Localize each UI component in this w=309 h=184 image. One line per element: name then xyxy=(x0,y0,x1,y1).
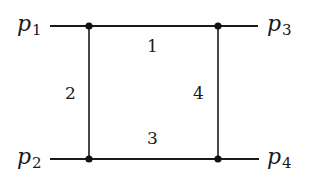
momentum-label-p2: p2 xyxy=(17,146,42,168)
momentum-subscript: 1 xyxy=(32,21,42,39)
vertex-bottom-right xyxy=(214,155,221,162)
momentum-subscript: 2 xyxy=(32,154,42,172)
momentum-label-p1: p1 xyxy=(17,13,42,35)
momentum-label-p3: p3 xyxy=(267,13,292,35)
propagator-label-bottom: 3 xyxy=(147,130,158,147)
momentum-label-p4: p4 xyxy=(267,146,292,168)
vertex-top-left xyxy=(85,22,92,29)
box-diagram-canvas xyxy=(0,0,309,184)
vertex-bottom-left xyxy=(85,155,92,162)
propagator-label-left: 2 xyxy=(65,85,76,102)
propagator-label-right: 4 xyxy=(193,85,204,102)
momentum-subscript: 3 xyxy=(282,21,292,39)
momentum-symbol: p xyxy=(17,144,31,169)
propagator-label-top: 1 xyxy=(147,38,158,55)
momentum-symbol: p xyxy=(267,11,281,36)
vertex-top-right xyxy=(214,22,221,29)
momentum-symbol: p xyxy=(267,144,281,169)
momentum-symbol: p xyxy=(17,11,31,36)
momentum-subscript: 4 xyxy=(282,154,292,172)
